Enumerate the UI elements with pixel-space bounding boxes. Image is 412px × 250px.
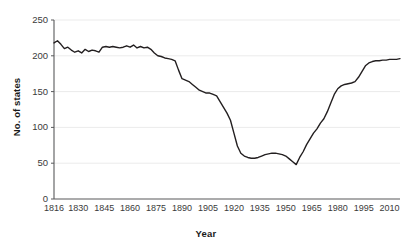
plot-area <box>0 0 412 250</box>
gridlines <box>54 20 400 163</box>
chart-container: 050100150200250 181618301845186018751890… <box>0 0 412 250</box>
data-line-series <box>54 41 400 165</box>
